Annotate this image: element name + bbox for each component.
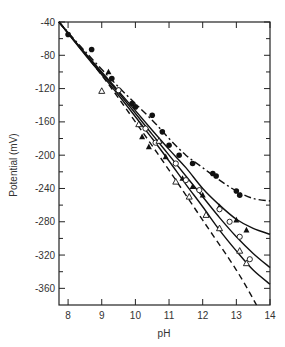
marker-filled-circle <box>166 142 172 148</box>
potential-vs-ph-chart: 891011121314 -40-80-120-160-200-240-280-… <box>0 0 285 347</box>
marker-filled-circle <box>213 173 219 179</box>
y-axis-label: Potential (mV) <box>8 133 19 196</box>
marker-filled-circle <box>237 192 243 198</box>
y-tick-label: -200 <box>35 150 55 161</box>
x-tick-label: 11 <box>164 310 175 321</box>
marker-filled-triangle <box>243 227 249 233</box>
marker-filled-circle <box>133 104 139 110</box>
y-axis-ticks: -40-80-120-160-200-240-280-320-360 <box>35 17 270 294</box>
x-tick-label: 12 <box>197 310 209 321</box>
y-tick-label: -120 <box>35 83 55 94</box>
marker-filled-circle <box>89 47 95 53</box>
marker-filled-circle <box>65 32 71 38</box>
x-tick-label: 9 <box>99 310 105 321</box>
marker-open-circle <box>217 207 222 212</box>
marker-open-circle <box>143 126 148 131</box>
marker-open-circle <box>247 257 252 262</box>
y-tick-label: -360 <box>35 283 55 294</box>
y-tick-label: -280 <box>35 216 55 227</box>
marker-filled-circle <box>190 161 196 167</box>
marker-open-circle <box>227 219 232 224</box>
y-tick-label: -160 <box>35 116 55 127</box>
x-axis-label: pH <box>158 328 171 339</box>
marker-filled-circle <box>149 112 155 118</box>
marker-open-triangle <box>99 88 105 94</box>
plot-border <box>59 22 270 305</box>
marker-open-circle <box>173 161 178 166</box>
marker-open-triangle <box>237 248 243 254</box>
marker-open-circle <box>237 234 242 239</box>
y-tick-label: -320 <box>35 250 55 261</box>
curve-filled-triangle <box>59 22 270 234</box>
marker-open-circle <box>183 178 188 183</box>
fitted-curves <box>59 22 270 305</box>
marker-filled-triangle <box>105 69 111 75</box>
marker-filled-circle <box>160 129 166 135</box>
data-markers <box>65 32 252 266</box>
x-tick-label: 10 <box>130 310 142 321</box>
marker-open-triangle <box>186 193 192 199</box>
marker-filled-circle <box>109 76 115 82</box>
y-tick-label: -240 <box>35 183 55 194</box>
plot-frame <box>59 22 270 305</box>
x-tick-label: 8 <box>65 310 71 321</box>
x-tick-label: 13 <box>231 310 243 321</box>
marker-open-circle <box>197 188 202 193</box>
curve-none <box>59 22 257 305</box>
y-tick-label: -40 <box>41 17 56 28</box>
marker-filled-circle <box>176 152 182 158</box>
y-tick-label: -80 <box>41 50 56 61</box>
x-tick-label: 14 <box>264 310 276 321</box>
marker-open-circle <box>116 88 121 93</box>
marker-open-triangle <box>173 179 179 185</box>
